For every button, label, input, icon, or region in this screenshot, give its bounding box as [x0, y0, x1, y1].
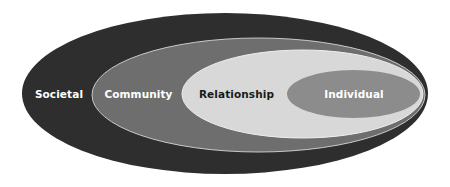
societal-label: Societal: [35, 88, 83, 100]
relationship-label: Relationship: [199, 88, 275, 100]
individual-label: Individual: [324, 88, 384, 100]
community-label: Community: [104, 88, 172, 100]
socio-ecological-diagram: Societal Community Relationship Individu…: [0, 0, 450, 187]
